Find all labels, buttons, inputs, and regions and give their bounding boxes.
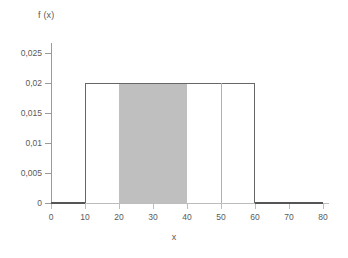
x-tick-5 (221, 204, 222, 209)
x-tick-label-3: 30 (148, 212, 157, 222)
x-tick-6 (255, 204, 256, 209)
x-tick-4 (187, 204, 188, 209)
x-tick-2 (119, 204, 120, 209)
x-tick-label-1: 10 (80, 212, 89, 222)
x-tick-label-8: 80 (318, 212, 327, 222)
y-tick-label-1: 0,005 (21, 168, 42, 178)
x-axis-title: x (0, 232, 348, 242)
x-tick-3 (153, 204, 154, 209)
y-tick-4 (45, 83, 51, 84)
x-tick-8 (323, 204, 324, 209)
vertical-line-at-50 (221, 83, 222, 203)
y-tick-label-4: 0,02 (25, 78, 42, 88)
y-tick-label-5: 0,025 (21, 48, 42, 58)
y-tick-1 (45, 173, 51, 174)
density-zero-segment-left (51, 202, 85, 204)
y-tick-label-2: 0,01 (25, 138, 42, 148)
y-tick-label-0: 0 (37, 198, 42, 208)
y-tick-3 (45, 113, 51, 114)
y-tick-2 (45, 143, 51, 144)
x-tick-label-6: 60 (250, 212, 259, 222)
x-tick-label-2: 20 (114, 212, 123, 222)
x-tick-7 (289, 204, 290, 209)
x-tick-0 (51, 204, 52, 209)
density-rectangle (85, 83, 255, 203)
y-axis-title: f (x) (38, 10, 55, 20)
x-tick-label-4: 40 (182, 212, 191, 222)
x-tick-1 (85, 204, 86, 209)
x-tick-label-0: 0 (49, 212, 54, 222)
y-axis-line (51, 43, 52, 204)
x-tick-label-5: 50 (216, 212, 225, 222)
chart-figure: f (x) 00,0050,010,0150,020,0250102030405… (0, 0, 348, 258)
y-tick-5 (45, 53, 51, 54)
x-tick-label-7: 70 (284, 212, 293, 222)
y-tick-label-3: 0,015 (21, 108, 42, 118)
